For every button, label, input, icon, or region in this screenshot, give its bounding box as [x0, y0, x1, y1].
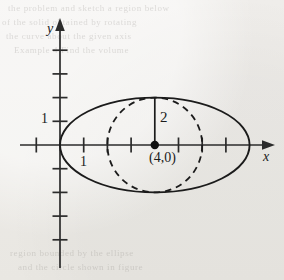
center-point-marker: [151, 141, 159, 149]
x-unit-tick-label: 1: [80, 155, 87, 169]
y-unit-tick-label: 1: [41, 112, 48, 126]
y-axis-label: y: [47, 22, 53, 36]
semi-minor-length-label: 2: [160, 110, 168, 125]
center-coordinate-label: (4,0): [149, 151, 176, 165]
y-axis-arrow-icon: [55, 18, 65, 31]
figure-canvas: the problem and sketch a region below of…: [0, 0, 284, 280]
axes-group: [20, 27, 266, 268]
ellipse-circle-diagram: [0, 0, 284, 280]
x-axis-label: x: [263, 150, 269, 164]
